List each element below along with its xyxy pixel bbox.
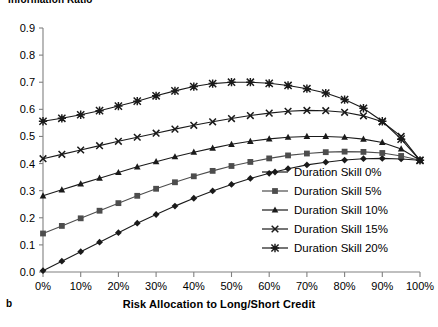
chart-title: Information Ratio [8,0,92,5]
x-tick-label: 40% [183,280,205,292]
data-point-marker-square [210,168,216,174]
data-point-marker-diamond [40,267,47,274]
data-point-marker-square [134,193,140,199]
series-line [43,82,420,160]
data-point-marker-diamond [190,195,197,202]
x-tick-label: 60% [258,280,280,292]
x-tick-label: 20% [107,280,129,292]
data-point-marker-asterisk [152,92,160,100]
legend-item: Duration Skill 20% [262,242,388,254]
data-point-marker-asterisk [133,97,141,105]
data-point-marker-diamond [209,188,216,195]
data-point-marker-diamond [77,248,84,255]
y-tick-label: 0.2 [20,212,35,224]
data-point-marker-square [153,186,159,192]
data-point-marker-asterisk [303,85,311,93]
y-tick-label: 0.5 [20,130,35,142]
line-chart-plot: 0.00.10.20.30.40.50.60.70.80.90%10%20%30… [0,0,438,327]
y-tick-label: 0.9 [20,22,35,34]
data-point-marker-asterisk [246,78,254,86]
data-point-marker-diamond [228,181,235,188]
data-point-marker-square [379,150,385,156]
data-point-marker-square [266,156,272,162]
legend-item: Duration Skill 10% [262,204,388,216]
data-point-marker-asterisk [190,82,198,90]
data-point-marker-diamond [272,169,279,176]
data-point-marker-diamond [379,155,386,162]
y-tick-label: 0.0 [20,266,35,278]
legend-label: Duration Skill 15% [294,223,388,235]
data-point-marker-asterisk [284,81,292,89]
legend-label: Duration Skill 0% [294,166,382,178]
data-point-marker-asterisk [114,102,122,110]
y-tick-label: 0.1 [20,239,35,251]
legend-item: Duration Skill 5% [262,185,382,197]
x-tick-label: 0% [35,280,51,292]
data-point-marker-asterisk [340,95,348,103]
data-point-marker-square [247,159,253,165]
data-point-marker-diamond [285,165,292,172]
data-point-marker-asterisk [227,78,235,86]
data-point-marker-asterisk [359,104,367,112]
data-point-marker-square [59,223,65,229]
x-axis-title: Risk Allocation to Long/Short Credit [0,298,438,310]
data-point-marker-asterisk [265,79,273,87]
data-point-marker-square [191,173,197,179]
legend-item: Duration Skill 0% [262,166,382,178]
x-tick-label: 30% [145,280,167,292]
data-point-marker-diamond [266,170,273,177]
data-point-marker-diamond [153,211,160,218]
data-point-marker-square [323,149,329,155]
data-point-marker-diamond [96,239,103,246]
data-point-marker-diamond [58,258,65,265]
y-tick-label: 0.7 [20,76,35,88]
data-point-marker-diamond [360,155,367,162]
data-point-marker-square [172,179,178,185]
legend-label: Duration Skill 5% [294,185,382,197]
x-tick-label: 50% [220,280,242,292]
data-point-marker-asterisk [397,135,405,143]
data-point-marker-asterisk [95,107,103,115]
data-point-marker-asterisk [322,89,330,97]
data-point-marker-square [229,163,235,169]
data-point-marker-asterisk [378,117,386,125]
data-point-marker-square [97,208,103,214]
data-point-marker-asterisk [77,111,85,119]
data-point-marker-diamond [134,220,141,227]
y-tick-label: 0.4 [20,158,35,170]
data-point-marker-diamond [341,157,348,164]
data-point-marker-square [285,153,291,159]
x-tick-label: 100% [406,280,434,292]
data-point-marker-asterisk [271,244,279,252]
data-point-marker-square [361,149,367,155]
data-point-marker-diamond [115,229,122,236]
data-point-marker-asterisk [58,114,66,122]
legend-label: Duration Skill 20% [294,242,388,254]
data-point-marker-asterisk [416,156,424,164]
data-point-marker-asterisk [171,87,179,95]
x-tick-label: 90% [371,280,393,292]
data-point-marker-diamond [322,159,329,166]
data-point-marker-square [40,231,46,237]
data-point-marker-square [116,200,122,206]
legend-item: Duration Skill 15% [262,223,388,235]
data-point-marker-asterisk [209,79,217,87]
x-tick-label: 10% [70,280,92,292]
data-point-marker-square [272,188,278,194]
chart-legend: Duration Skill 0%Duration Skill 5%Durati… [262,166,388,254]
data-point-marker-square [342,149,348,155]
data-point-marker-diamond [172,203,179,210]
chart-figure: Information Ratio 0.00.10.20.30.40.50.60… [0,0,438,327]
series-group [40,107,424,163]
y-tick-label: 0.8 [20,49,35,61]
legend-label: Duration Skill 10% [294,204,388,216]
data-point-marker-diamond [247,175,254,182]
data-point-marker-asterisk [39,117,47,125]
y-tick-label: 0.6 [20,103,35,115]
data-point-marker-square [398,153,404,159]
data-point-marker-square [304,151,310,157]
x-tick-label: 70% [296,280,318,292]
y-tick-label: 0.3 [20,185,35,197]
x-tick-label: 80% [334,280,356,292]
data-point-marker-square [78,215,84,221]
